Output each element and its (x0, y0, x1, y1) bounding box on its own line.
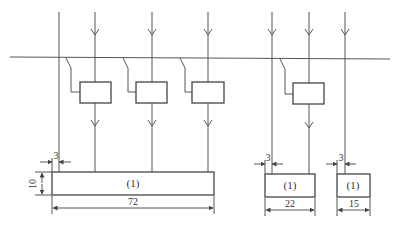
feed-line-3 (180, 12, 224, 172)
dimension-bar-1-width: 72 (52, 196, 214, 214)
feed-line-4 (268, 12, 349, 174)
svg-text:3: 3 (339, 152, 344, 163)
bus-line (10, 57, 390, 59)
relay-box (80, 82, 111, 103)
feed-line-2 (123, 12, 167, 172)
dimension-bar-2-width: 22 (265, 198, 315, 216)
svg-text:22: 22 (285, 198, 295, 209)
feed-line-1 (66, 12, 111, 172)
wiring-diagram: (1) (1) (1) 3 10 72 3 22 (0, 0, 398, 226)
svg-text:3: 3 (54, 150, 59, 161)
svg-text:10: 10 (27, 179, 38, 189)
dimension-offset-1: 3 (40, 150, 71, 172)
bar-1-label: (1) (127, 177, 140, 190)
relay-box (293, 83, 324, 104)
dimension-height: 10 (27, 172, 52, 195)
relay-box (192, 82, 224, 103)
svg-text:15: 15 (349, 198, 359, 209)
svg-text:3: 3 (266, 152, 271, 163)
bar-3-label: (1) (347, 179, 360, 192)
dimension-offset-2: 3 (254, 152, 283, 174)
bar-2-label: (1) (284, 179, 297, 192)
svg-text:72: 72 (128, 196, 138, 207)
relay-box (136, 82, 167, 103)
dimension-offset-3: 3 (326, 152, 356, 174)
dimension-bar-3-width: 15 (337, 198, 370, 216)
